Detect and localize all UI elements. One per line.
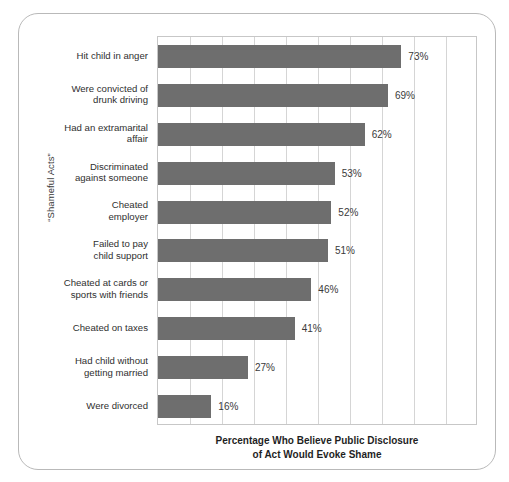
bar <box>158 123 365 146</box>
category-axis-labels: Hit child in angerWere convicted ofdrunk… <box>0 36 150 425</box>
bar-row: 51% <box>158 232 476 271</box>
category-label-line: Had child without <box>0 355 148 367</box>
bar-rows: 73%69%62%53%52%51%46%41%27%16% <box>158 37 476 424</box>
category-label: Failed to paychild support <box>0 231 148 270</box>
bar-value-label: 51% <box>335 245 355 256</box>
category-label-line: drunk driving <box>0 94 148 106</box>
category-label: Were divorced <box>0 386 148 425</box>
category-label-line: affair <box>0 133 148 145</box>
category-label: Cheatedemployer <box>0 192 148 231</box>
bar-value-label: 53% <box>342 168 362 179</box>
category-label: Hit child in anger <box>0 36 148 75</box>
bar <box>158 84 388 107</box>
bar-row: 69% <box>158 76 476 115</box>
bar <box>158 162 335 185</box>
x-axis-title: Percentage Who Believe Public Disclosure… <box>157 434 477 462</box>
x-axis-title-line: Percentage Who Believe Public Disclosure <box>157 434 477 448</box>
bar-value-label: 52% <box>338 207 358 218</box>
bar-row: 16% <box>158 387 476 426</box>
bar-value-label: 62% <box>372 129 392 140</box>
bar-row: 27% <box>158 348 476 387</box>
bar-row: 53% <box>158 154 476 193</box>
bar <box>158 317 295 340</box>
category-label-line: Cheated at cards or <box>0 277 148 289</box>
category-label-line: Hit child in anger <box>0 50 148 62</box>
bar-row: 46% <box>158 270 476 309</box>
category-label-line: against someone <box>0 172 148 184</box>
bar <box>158 45 401 68</box>
bar-row: 62% <box>158 115 476 154</box>
category-label: Discriminatedagainst someone <box>0 153 148 192</box>
chart-figure: “Shameful Acts” Hit child in angerWere c… <box>0 0 509 482</box>
category-label-line: Discriminated <box>0 161 148 173</box>
category-label-line: Failed to pay <box>0 238 148 250</box>
x-axis-title-line: of Act Would Evoke Shame <box>157 448 477 462</box>
bar <box>158 239 328 262</box>
category-label: Cheated on taxes <box>0 308 148 347</box>
bar-value-label: 16% <box>218 401 238 412</box>
category-label: Cheated at cards orsports with friends <box>0 269 148 308</box>
category-label-line: employer <box>0 211 148 223</box>
category-label: Had child withoutgetting married <box>0 347 148 386</box>
bar <box>158 201 331 224</box>
bar-value-label: 41% <box>302 323 322 334</box>
category-label-line: sports with friends <box>0 289 148 301</box>
bar <box>158 278 311 301</box>
category-label-line: Were convicted of <box>0 83 148 95</box>
bar-row: 52% <box>158 193 476 232</box>
plot-area: 73%69%62%53%52%51%46%41%27%16% <box>157 36 477 425</box>
category-label: Had an extramaritalaffair <box>0 114 148 153</box>
category-label-line: Were divorced <box>0 400 148 412</box>
bar <box>158 356 248 379</box>
category-label-line: Cheated on taxes <box>0 322 148 334</box>
bar-row: 41% <box>158 309 476 348</box>
bar-value-label: 46% <box>318 284 338 295</box>
category-label-line: getting married <box>0 367 148 379</box>
bar-row: 73% <box>158 37 476 76</box>
category-label-line: child support <box>0 250 148 262</box>
bar-value-label: 27% <box>255 362 275 373</box>
category-label: Were convicted ofdrunk driving <box>0 75 148 114</box>
bar-value-label: 69% <box>395 90 415 101</box>
bar <box>158 395 211 418</box>
category-label-line: Had an extramarital <box>0 122 148 134</box>
category-label-line: Cheated <box>0 199 148 211</box>
bar-value-label: 73% <box>408 51 428 62</box>
